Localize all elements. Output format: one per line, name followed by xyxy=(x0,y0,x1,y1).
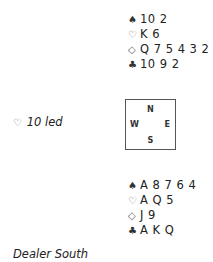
north-diamonds: ◇ Q 7 5 4 3 2 xyxy=(128,42,209,57)
club-icon: ♣ xyxy=(128,223,140,238)
compass-south: S xyxy=(126,135,175,145)
diamond-icon: ◇ xyxy=(128,42,140,57)
south-hand: ♠ A 8 7 6 4 ♡ A Q 5 ◇ J 9 ♣ A K Q xyxy=(128,178,196,238)
north-spades: ♠ 10 2 xyxy=(128,12,209,27)
club-icon: ♣ xyxy=(128,57,140,72)
dealer-label: Dealer South xyxy=(13,247,88,261)
south-hearts: ♡ A Q 5 xyxy=(128,193,196,208)
north-clubs: ♣ 10 9 2 xyxy=(128,57,209,72)
north-diamonds-cards: Q 7 5 4 3 2 xyxy=(140,42,209,57)
south-diamonds: ◇ J 9 xyxy=(128,208,196,223)
compass-north: N xyxy=(126,104,175,114)
south-spades: ♠ A 8 7 6 4 xyxy=(128,178,196,193)
south-spades-cards: A 8 7 6 4 xyxy=(140,178,196,193)
lead-text: 10 led xyxy=(27,115,63,129)
compass-box: N W E S xyxy=(125,99,176,150)
spade-icon: ♠ xyxy=(128,12,140,27)
north-clubs-cards: 10 9 2 xyxy=(140,57,180,72)
spade-icon: ♠ xyxy=(128,178,140,193)
compass-west: W xyxy=(130,119,139,129)
south-hearts-cards: A Q 5 xyxy=(140,193,174,208)
north-hearts: ♡ K 6 xyxy=(128,27,209,42)
opening-lead: ♡ 10 led xyxy=(13,115,63,129)
north-hearts-cards: K 6 xyxy=(140,27,160,42)
heart-icon: ♡ xyxy=(128,27,140,42)
south-diamonds-cards: J 9 xyxy=(140,208,156,223)
south-clubs: ♣ A K Q xyxy=(128,223,196,238)
north-hand: ♠ 10 2 ♡ K 6 ◇ Q 7 5 4 3 2 ♣ 10 9 2 xyxy=(128,12,209,72)
heart-icon: ♡ xyxy=(128,193,140,208)
compass-east: E xyxy=(164,119,170,129)
diamond-icon: ◇ xyxy=(128,208,140,223)
north-spades-cards: 10 2 xyxy=(140,12,168,27)
south-clubs-cards: A K Q xyxy=(140,223,174,238)
heart-icon: ♡ xyxy=(13,117,23,128)
